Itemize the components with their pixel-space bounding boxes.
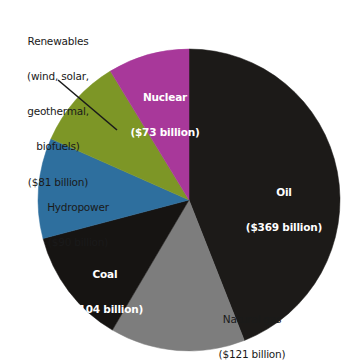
- slice-label-nuclear-name: Nuclear: [116, 92, 214, 104]
- slice-label-nuclear: Nuclear ($73 billion): [116, 68, 214, 162]
- slice-label-nuclear-value: ($73 billion): [116, 127, 214, 139]
- slice-label-oil: Oil ($369 billion): [232, 163, 336, 257]
- slice-label-renewables-detail-3: biofuels): [6, 141, 110, 153]
- slice-label-renewables-name: Renewables: [6, 36, 110, 48]
- slice-label-natural-gas-name: Natural gas: [196, 314, 308, 326]
- slice-label-renewables-detail-2: geothermal,: [6, 106, 110, 118]
- slice-label-hydropower-value: ($90 billion): [22, 237, 134, 249]
- slice-label-coal-value: ($104 billion): [46, 304, 164, 316]
- slice-label-renewables-detail-1: (wind, solar,: [6, 71, 110, 83]
- slice-label-renewables-value: ($81 billion): [6, 177, 110, 189]
- slice-label-natural-gas: Natural gas ($121 billion): [196, 290, 308, 364]
- slice-label-oil-name: Oil: [232, 187, 336, 199]
- slice-label-natural-gas-value: ($121 billion): [196, 349, 308, 361]
- slice-label-oil-value: ($369 billion): [232, 222, 336, 234]
- slice-label-renewables: Renewables (wind, solar, geothermal, bio…: [6, 12, 110, 212]
